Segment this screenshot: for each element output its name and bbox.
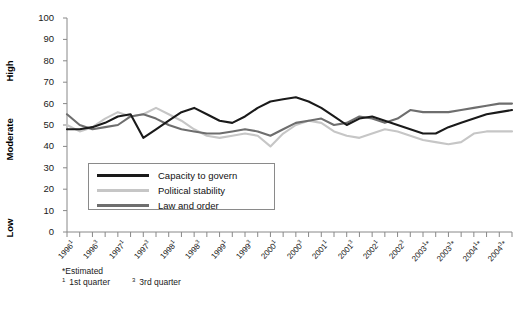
legend-swatch-political-stability [97,189,149,192]
footnote-estimated: *Estimated [62,266,322,276]
x-axis-tick-label: 20031* [384,240,433,293]
legend-label: Political stability [158,186,225,196]
footnote-quarters: 1 1st quarter 3 3rd quarter [62,277,322,288]
legend-item: Capacity to govern [97,169,274,182]
legend-item: Law and order [97,199,274,212]
footnote-q3: 3 3rd quarter [132,277,181,288]
legend-label: Law and order [158,201,219,211]
legend-item: Political stability [97,184,274,197]
legend-swatch-law-and-order [97,204,149,207]
footnotes: *Estimated 1 1st quarter 3 3rd quarter [62,266,322,288]
footnote-q3-text: 3rd quarter [139,277,181,288]
footnote-spacer [110,277,132,288]
legend: Capacity to govern Political stability L… [88,163,275,210]
chart-figure: 1009080706050403020100 HighModerateLow 1… [0,0,518,315]
legend-swatch-capacity-to-govern [97,174,149,177]
footnote-q3-marker: 3 [132,277,135,284]
footnote-q1-marker: 1 [62,277,65,284]
legend-label: Capacity to govern [158,171,237,181]
footnote-q1: 1 1st quarter [62,277,110,288]
footnote-q1-text: 1st quarter [69,277,110,288]
